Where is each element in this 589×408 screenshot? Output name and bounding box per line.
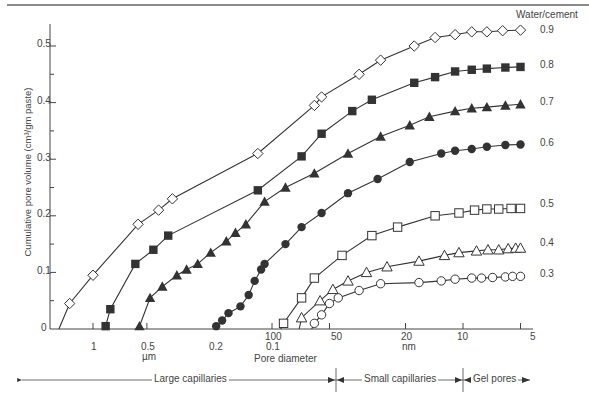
circle-marker bbox=[260, 260, 268, 268]
ytick-label-0.4: 0.4 bbox=[37, 95, 51, 106]
ytick-label-0.2: 0.2 bbox=[37, 208, 51, 219]
square-marker bbox=[254, 186, 262, 194]
square-marker bbox=[317, 130, 325, 138]
square-marker bbox=[455, 209, 463, 217]
circle-marker bbox=[317, 311, 325, 319]
circle-marker bbox=[451, 275, 459, 283]
diamond-marker bbox=[430, 32, 440, 42]
circle-marker bbox=[297, 223, 305, 231]
arrow-left-icon bbox=[464, 377, 471, 383]
triangle-marker bbox=[328, 284, 338, 293]
circle-marker bbox=[488, 273, 496, 281]
series-0.4 bbox=[296, 243, 525, 329]
diamond-marker bbox=[515, 25, 525, 35]
x-axis-label: Pore diameter bbox=[254, 353, 317, 364]
triangle-marker bbox=[134, 321, 144, 330]
y-axis-label: Cumulative pore volume (cm³/gm paste) bbox=[22, 107, 33, 257]
square-marker bbox=[431, 212, 439, 220]
circle-marker bbox=[468, 145, 476, 153]
circle-marker bbox=[236, 302, 244, 310]
circle-marker bbox=[501, 141, 509, 149]
circle-marker bbox=[483, 143, 491, 151]
square-marker bbox=[106, 305, 114, 313]
arrow-right-icon bbox=[455, 377, 462, 383]
series-label-0.4: 0.4 bbox=[540, 237, 554, 248]
diamond-marker bbox=[354, 69, 364, 79]
triangle-marker bbox=[343, 276, 353, 285]
triangle-marker bbox=[343, 148, 353, 157]
series-0.3 bbox=[310, 272, 525, 329]
triangle-marker bbox=[230, 228, 240, 237]
xtick-label-10: 10 bbox=[457, 331, 468, 342]
diamond-marker bbox=[467, 27, 477, 37]
square-marker bbox=[483, 64, 491, 72]
region-large-capillaries: Large capillaries bbox=[152, 373, 229, 384]
series-0.7 bbox=[134, 99, 525, 330]
arrow-right-icon bbox=[328, 377, 335, 383]
triangle-marker bbox=[515, 99, 525, 108]
ytick-label-0.1: 0.1 bbox=[37, 265, 51, 276]
square-marker bbox=[164, 231, 172, 239]
circle-marker bbox=[281, 240, 289, 248]
xtick-label-5: 5 bbox=[530, 331, 536, 342]
region-gel-pores: Gel pores bbox=[471, 373, 518, 384]
triangle-marker bbox=[181, 264, 191, 273]
circle-marker bbox=[451, 147, 459, 155]
circle-marker bbox=[516, 272, 524, 280]
circle-marker bbox=[477, 274, 485, 282]
square-marker bbox=[149, 246, 157, 254]
series-0.5 bbox=[279, 204, 524, 329]
square-marker bbox=[348, 107, 356, 115]
square-marker bbox=[101, 322, 109, 330]
square-marker bbox=[468, 66, 476, 74]
series-label-0.5: 0.5 bbox=[540, 198, 554, 209]
region-small-capillaries: Small capillaries bbox=[362, 373, 438, 384]
xtick-label-1: 1 bbox=[91, 341, 97, 352]
circle-marker bbox=[355, 286, 363, 294]
square-marker bbox=[507, 204, 515, 212]
triangle-marker bbox=[375, 131, 385, 140]
triangle-marker bbox=[259, 196, 269, 205]
arrow-left-icon bbox=[337, 377, 344, 383]
square-marker bbox=[410, 79, 418, 87]
circle-marker bbox=[437, 149, 445, 157]
circle-marker bbox=[406, 158, 414, 166]
circle-marker bbox=[325, 299, 333, 307]
axes bbox=[50, 24, 533, 329]
triangle-marker bbox=[206, 247, 216, 256]
square-marker bbox=[516, 204, 524, 212]
square-marker bbox=[368, 231, 376, 239]
circle-marker bbox=[344, 189, 352, 197]
series-label-0.8: 0.8 bbox=[540, 59, 554, 70]
circle-marker bbox=[437, 277, 445, 285]
triangle-marker bbox=[405, 120, 415, 129]
square-marker bbox=[310, 274, 318, 282]
series-label-0.7: 0.7 bbox=[540, 96, 554, 107]
circle-marker bbox=[250, 277, 258, 285]
square-marker bbox=[338, 251, 346, 259]
circle-marker bbox=[508, 272, 516, 280]
xtick-label-0.2: 0.2 bbox=[209, 341, 223, 352]
diamond-marker bbox=[409, 41, 419, 51]
circle-marker bbox=[224, 309, 232, 317]
triangle-marker bbox=[309, 168, 319, 177]
series-label-0.9: 0.9 bbox=[540, 24, 554, 35]
series-label-0.6: 0.6 bbox=[540, 137, 554, 148]
square-marker bbox=[451, 67, 459, 75]
square-marker bbox=[470, 206, 478, 214]
series-label-0.3: 0.3 bbox=[540, 268, 554, 279]
circle-marker bbox=[468, 274, 476, 282]
square-marker bbox=[297, 152, 305, 160]
triangle-marker bbox=[172, 270, 182, 279]
diamond-marker bbox=[450, 29, 460, 39]
diamond-marker bbox=[375, 55, 385, 65]
triangle-marker bbox=[280, 182, 290, 191]
circle-marker bbox=[376, 280, 384, 288]
ytick-label-0.3: 0.3 bbox=[37, 152, 51, 163]
triangle-marker bbox=[157, 281, 167, 290]
circle-marker bbox=[334, 294, 342, 302]
square-marker bbox=[495, 205, 503, 213]
pore-volume-chart bbox=[0, 0, 589, 408]
diamond-marker bbox=[497, 26, 507, 36]
square-marker bbox=[368, 96, 376, 104]
